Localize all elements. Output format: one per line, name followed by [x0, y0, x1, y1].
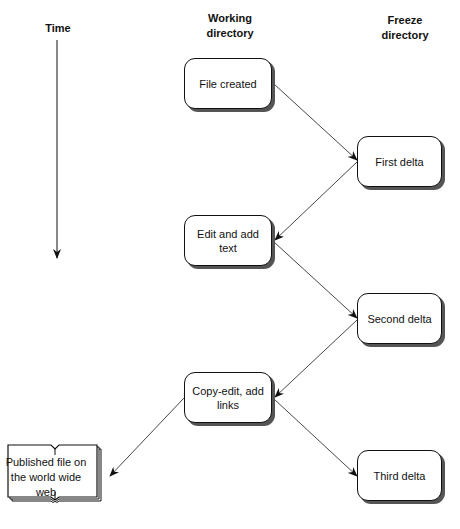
node-label: Second delta	[367, 312, 431, 326]
node-label: Third delta	[374, 469, 426, 483]
node-edit-add-text: Edit and add text	[184, 215, 272, 266]
working-header-line2: directory	[195, 26, 265, 41]
node-file-created: File created	[184, 58, 272, 109]
edge-copy-edit-to-third-delta	[274, 399, 357, 476]
node-label: File created	[199, 77, 256, 91]
time-label: Time	[45, 22, 70, 34]
edge-file-created-to-first-delta	[274, 84, 357, 160]
node-label: First delta	[375, 155, 423, 169]
node-first-delta: First delta	[357, 136, 442, 187]
node-label-line2: text	[197, 241, 259, 255]
freeze-directory-header: Freeze directory	[370, 13, 440, 43]
freeze-header-line2: directory	[370, 28, 440, 43]
edge-copy-edit-to-published	[110, 398, 184, 476]
node-label-line2: links	[192, 398, 264, 412]
published-line3: web	[0, 485, 92, 500]
working-header-line1: Working	[195, 11, 265, 26]
working-directory-header: Working directory	[195, 11, 265, 41]
edge-first-delta-to-edit	[275, 162, 357, 240]
node-copy-edit: Copy-edit, add links	[184, 372, 272, 423]
edge-second-delta-to-copy-edit	[275, 320, 357, 397]
freeze-header-line1: Freeze	[370, 13, 440, 28]
time-header: Time	[38, 21, 78, 36]
node-label-line1: Edit and add	[197, 227, 259, 241]
node-second-delta: Second delta	[357, 293, 442, 344]
edge-edit-to-second-delta	[274, 242, 357, 318]
published-line2: the world wide	[0, 470, 92, 485]
published-line1: Published file on	[0, 455, 92, 470]
node-third-delta: Third delta	[357, 450, 442, 501]
node-published-file: Published file on the world wide web	[0, 455, 92, 500]
node-label-line1: Copy-edit, add	[192, 384, 264, 398]
